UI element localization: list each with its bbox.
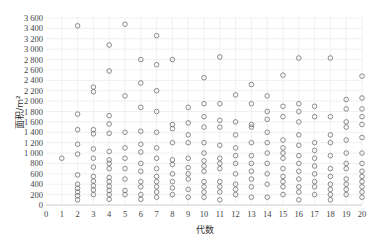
y-tick-label: 2 400 — [24, 75, 43, 85]
x-tick-label: 10 — [200, 209, 209, 219]
gridlines — [46, 18, 362, 205]
x-tick-label: 11 — [216, 209, 224, 219]
x-tick-label: 1 — [60, 209, 64, 219]
y-tick-label: 1 200 — [24, 138, 43, 148]
x-tick-label: 5 — [123, 209, 127, 219]
y-tick-label: 3 200 — [24, 34, 43, 44]
y-tick-label: 1 000 — [24, 148, 43, 158]
y-tick-label: 600 — [30, 169, 43, 179]
y-tick-label: 3 000 — [24, 44, 43, 54]
y-axis-title: 面积/m² — [14, 95, 25, 129]
x-tick-label: 12 — [231, 209, 240, 219]
x-tick-label: 4 — [107, 209, 112, 219]
y-tick-label: 2 000 — [24, 96, 43, 106]
x-tick-label: 20 — [358, 209, 367, 219]
x-axis-title: 代数 — [196, 224, 214, 235]
y-tick-label: 2 600 — [24, 65, 43, 75]
y-tick-label: 3 600 — [24, 13, 43, 23]
x-tick-label: 6 — [139, 209, 143, 219]
x-tick-label: 16 — [295, 209, 304, 219]
y-tick-label: 1 400 — [24, 127, 43, 137]
x-tick-label: 14 — [263, 209, 272, 219]
y-tick-label: 2 200 — [24, 86, 43, 96]
y-tick-label: 2 800 — [24, 55, 43, 65]
x-tick-label: 9 — [186, 209, 190, 219]
y-tick-label: 400 — [30, 179, 43, 189]
y-tick-label: 1 800 — [24, 107, 43, 117]
x-tick-label: 17 — [310, 209, 319, 219]
x-tick-label: 0 — [44, 209, 48, 219]
y-axis-ticks: 02004006008001 0001 2001 4001 6001 8002 … — [24, 13, 43, 210]
x-axis-ticks: 01234567891011121314151617181920 — [44, 209, 366, 219]
y-tick-label: 0 — [39, 200, 43, 210]
x-tick-label: 19 — [342, 209, 351, 219]
x-tick-label: 7 — [154, 209, 158, 219]
x-tick-label: 8 — [170, 209, 174, 219]
x-tick-label: 15 — [279, 209, 288, 219]
x-tick-label: 2 — [75, 209, 79, 219]
y-tick-label: 1 600 — [24, 117, 43, 127]
y-tick-label: 200 — [30, 190, 43, 200]
scatter-chart: 02004006008001 0001 2001 4001 6001 8002 … — [0, 0, 375, 243]
x-tick-label: 13 — [247, 209, 256, 219]
x-tick-label: 18 — [326, 209, 335, 219]
y-tick-label: 3 400 — [24, 23, 43, 33]
y-tick-label: 800 — [30, 158, 43, 168]
x-tick-label: 3 — [91, 209, 95, 219]
